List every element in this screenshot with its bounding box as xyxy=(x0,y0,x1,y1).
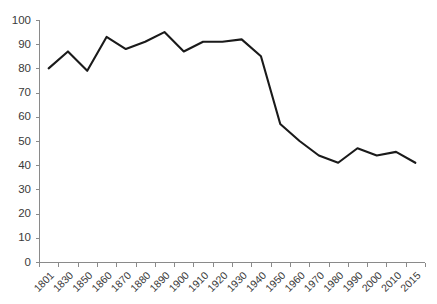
y-axis-tick-label: 50 xyxy=(18,135,31,147)
y-axis-tick-labels: 0102030405060708090100 xyxy=(12,14,31,268)
x-axis-tick-marks xyxy=(40,263,426,267)
x-axis-tick-label: 1950 xyxy=(263,269,288,294)
x-axis-tick-label: 1980 xyxy=(321,269,346,294)
x-axis-tick-label: 1940 xyxy=(243,269,268,294)
x-axis-tick-label: 1970 xyxy=(301,269,326,294)
y-axis-tick-label: 70 xyxy=(18,86,31,98)
x-axis-tick-label: 1850 xyxy=(70,269,95,294)
x-axis-tick-label: 2000 xyxy=(359,269,384,294)
y-axis-tick-label: 10 xyxy=(18,231,31,243)
x-axis-tick-label: 1860 xyxy=(89,269,114,294)
y-axis-tick-label: 80 xyxy=(18,62,31,74)
x-axis-tick-label: 1890 xyxy=(147,269,172,294)
x-axis-tick-label: 1900 xyxy=(166,269,191,294)
y-axis-tick-label: 40 xyxy=(18,159,31,171)
x-axis-tick-labels: 1801183018501860187018801890190019101920… xyxy=(31,269,423,294)
data-series-line xyxy=(49,32,416,163)
x-axis-tick-label: 2015 xyxy=(398,269,423,294)
x-axis-tick-label: 1830 xyxy=(50,269,75,294)
x-axis-tick-label: 1930 xyxy=(224,269,249,294)
y-axis-tick-marks xyxy=(36,21,40,263)
x-axis-tick-label: 1870 xyxy=(108,269,133,294)
x-axis-tick-label: 1910 xyxy=(185,269,210,294)
y-axis-tick-label: 100 xyxy=(12,14,31,26)
y-axis-tick-label: 20 xyxy=(18,207,31,219)
x-axis-tick-label: 1920 xyxy=(205,269,230,294)
x-axis-tick-label: 1880 xyxy=(128,269,153,294)
x-axis-tick-label: 1801 xyxy=(31,269,56,294)
x-axis-tick-label: 1960 xyxy=(282,269,307,294)
y-axis-tick-label: 30 xyxy=(18,183,31,195)
x-axis-tick-label: 1990 xyxy=(340,269,365,294)
y-axis-tick-label: 0 xyxy=(25,256,31,268)
x-axis-tick-label: 2010 xyxy=(378,269,403,294)
line-chart: 0102030405060708090100 18011830185018601… xyxy=(0,0,437,304)
y-axis-tick-label: 60 xyxy=(18,110,31,122)
y-axis-tick-label: 90 xyxy=(18,38,31,50)
chart-container: 0102030405060708090100 18011830185018601… xyxy=(0,0,437,304)
